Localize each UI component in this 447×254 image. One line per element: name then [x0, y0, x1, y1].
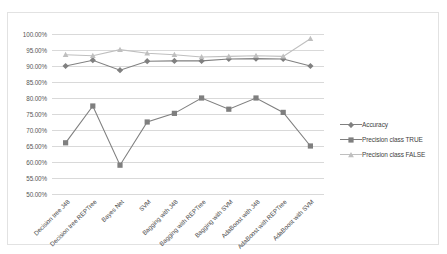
data-point-marker: [308, 36, 314, 41]
y-axis-tick-label: 85.00%: [26, 79, 47, 86]
data-point-marker: [145, 119, 150, 124]
series-line: [66, 98, 311, 165]
y-axis-tick-label: 65.00%: [26, 143, 47, 150]
legend-item-accuracy[interactable]: Accuracy: [340, 117, 444, 132]
series-precision-class-true: [63, 95, 313, 167]
chart-legend: AccuracyPrecision class TRUEPrecision cl…: [340, 117, 444, 162]
legend-item-precision-class-false[interactable]: Precision class FALSE: [340, 147, 444, 162]
data-point-marker: [348, 152, 354, 157]
y-axis-tick-label: 75.00%: [26, 111, 47, 118]
data-point-marker: [226, 107, 231, 112]
series-accuracy: [62, 56, 313, 74]
data-point-marker: [117, 163, 122, 168]
data-point-marker: [62, 63, 68, 69]
x-axis-tick-label: AdaBoost with REPTree: [236, 198, 288, 250]
data-point-marker: [117, 47, 123, 52]
y-axis-tick-label: 55.00%: [26, 175, 47, 182]
data-point-marker: [253, 95, 258, 100]
legend-label: Accuracy: [362, 121, 388, 128]
legend-marker-triangle-icon: [340, 150, 362, 160]
data-point-marker: [90, 103, 95, 108]
series-line: [66, 59, 311, 71]
data-point-marker: [199, 95, 204, 100]
series-line: [66, 39, 311, 57]
x-axis-tick-label: Decision tree REPTree: [48, 198, 98, 248]
x-axis-tick-label: Bayes Net: [100, 198, 125, 223]
data-point-marker: [308, 143, 313, 148]
data-point-marker: [348, 137, 353, 142]
data-point-marker: [117, 67, 123, 73]
legend-marker-diamond-icon: [340, 120, 362, 130]
y-axis-tick-label: 70.00%: [26, 127, 47, 134]
series-precision-class-false: [63, 36, 314, 59]
y-axis-tick-label: 95.00%: [26, 47, 47, 54]
x-axis-tick-label: SVM: [138, 198, 152, 212]
chart-container: 100.00%95.00%90.00%85.00%80.00%75.00%70.…: [7, 12, 439, 245]
gridline: [52, 194, 324, 195]
y-axis-tick-label: 80.00%: [26, 95, 47, 102]
y-axis-tick-label: 100.00%: [23, 31, 47, 38]
data-point-marker: [63, 140, 68, 145]
data-point-marker: [144, 58, 150, 64]
data-point-marker: [90, 57, 96, 63]
data-point-marker: [172, 111, 177, 116]
y-axis-tick-label: 50.00%: [26, 191, 47, 198]
legend-label: Precision class TRUE: [362, 136, 423, 143]
y-axis-tick-label: 90.00%: [26, 63, 47, 70]
legend-marker-square-icon: [340, 135, 362, 145]
plot-area: 100.00%95.00%90.00%85.00%80.00%75.00%70.…: [52, 34, 324, 194]
data-point-marker: [348, 122, 354, 128]
y-axis-tick-label: 60.00%: [26, 159, 47, 166]
legend-label: Precision class FALSE: [362, 151, 425, 158]
data-point-marker: [281, 110, 286, 115]
legend-item-precision-class-true[interactable]: Precision class TRUE: [340, 132, 444, 147]
data-point-marker: [171, 58, 177, 64]
series-layer: [52, 34, 324, 194]
data-point-marker: [307, 63, 313, 69]
